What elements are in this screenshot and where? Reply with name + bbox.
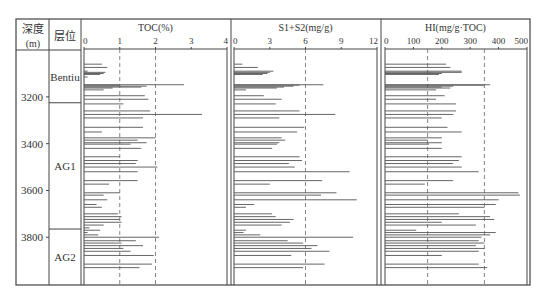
layer-header-label: 层位 (54, 29, 76, 42)
depth-header-unit: (m) (26, 38, 40, 50)
toc-panel: TOC(%)01234 (83, 22, 229, 285)
x-tick-label: 12 (369, 36, 378, 46)
x-tick-label: 0 (384, 36, 389, 46)
x-tick-label: 1 (118, 36, 123, 46)
layer-label: AG1 (54, 160, 75, 172)
depth-tick-label: 3200 (21, 91, 44, 103)
depth-tick-label: 3800 (21, 231, 44, 243)
x-tick-label: 3 (189, 36, 194, 46)
panel-title: TOC(%) (138, 22, 173, 34)
x-tick-label: 500 (515, 36, 529, 46)
depth-tick-label: 3400 (21, 138, 44, 150)
x-tick-label: 0 (83, 36, 88, 46)
x-tick-label: 2 (153, 36, 158, 46)
s1s2-panel: S1+S2(mg/g)036912 (233, 22, 378, 285)
x-tick-label: 200 (435, 36, 449, 46)
depth-header-label: 深度 (22, 22, 44, 35)
well-geochemistry-chart: 深度 (m) 层位 3200340036003800 BentiuAG1AG2 … (0, 0, 547, 302)
outer-border (16, 19, 530, 285)
layer-label: Bentiu (50, 71, 80, 83)
x-tick-label: 300 (463, 36, 477, 46)
hi-panel: HI(mg/g·TOC)0100200300400500 (384, 22, 529, 285)
depth-axis: 3200340036003800 (21, 91, 49, 243)
x-tick-label: 100 (407, 36, 421, 46)
panel-title: HI(mg/g·TOC) (425, 22, 486, 34)
x-tick-label: 400 (492, 36, 506, 46)
x-tick-label: 3 (268, 36, 273, 46)
depth-tick-label: 3600 (21, 184, 44, 196)
x-tick-label: 6 (303, 36, 308, 46)
table-frame (16, 19, 530, 285)
x-tick-label: 4 (224, 36, 229, 46)
panel-title: S1+S2(mg/g) (279, 22, 333, 34)
layer-label: AG2 (54, 251, 75, 263)
x-tick-label: 9 (339, 36, 344, 46)
layer-column: BentiuAG1AG2 (49, 71, 81, 262)
x-tick-label: 0 (233, 36, 238, 46)
